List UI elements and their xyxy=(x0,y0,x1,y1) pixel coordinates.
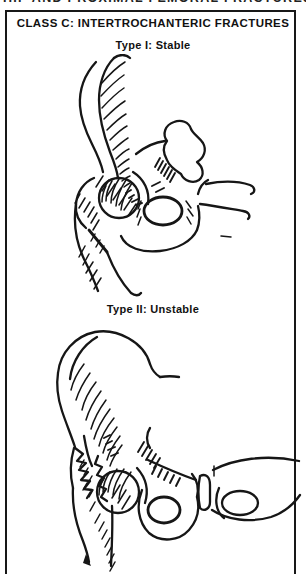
ischium-and-pubis xyxy=(121,121,254,252)
ischial-spine-hatching xyxy=(152,158,175,192)
obturator-foramen xyxy=(144,197,182,225)
femoral-head xyxy=(99,178,139,218)
scanned-textbook-page: { "page": { "running_header": "HIP AND P… xyxy=(0,0,306,574)
superior-pubic-ramus xyxy=(213,458,299,470)
femur-shaft-hatching xyxy=(79,246,101,289)
superior-pubic-ramus xyxy=(206,182,254,194)
iliac-wing xyxy=(57,331,179,466)
sciatic-notch xyxy=(138,428,160,468)
figure-2-caption: Type II: Unstable xyxy=(0,303,306,315)
greater-trochanter-and-femur xyxy=(75,176,141,295)
figure-1-caption: Type I: Stable xyxy=(0,39,306,51)
running-header: HIP AND PROXIMAL FEMORAL FRACTURES xyxy=(3,0,306,5)
type-1-stable-fracture-illustration xyxy=(0,54,306,298)
ischium-and-pubis xyxy=(139,458,300,540)
plate-title: CLASS C: INTERTROCHANTERIC FRACTURES xyxy=(0,17,306,29)
inferior-pubic-ramus xyxy=(200,204,249,219)
contralateral-obturator-foramen xyxy=(222,491,258,515)
obturator-foramen xyxy=(148,497,180,523)
femur-shaft xyxy=(73,488,115,571)
type-2-unstable-fracture-illustration xyxy=(0,320,306,574)
pubic-symphysis xyxy=(199,475,211,510)
